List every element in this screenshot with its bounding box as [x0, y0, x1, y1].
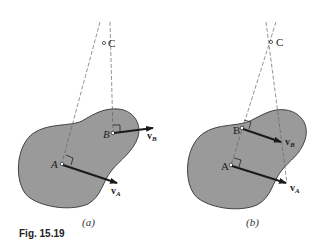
label-a: A: [221, 160, 229, 172]
rigid-body-shape: [18, 109, 139, 208]
panel-label-b: (b): [246, 216, 259, 229]
label-b: B: [233, 124, 240, 136]
label-b: B: [103, 128, 110, 140]
vector-label-vb: vB: [147, 130, 157, 143]
figure-caption: Fig. 15.19: [19, 228, 65, 239]
vector-label-va: vA: [290, 182, 300, 195]
vector-label-va: vA: [111, 185, 121, 198]
point-c: [269, 40, 272, 43]
panel-b: C B A vB vA (b): [188, 22, 307, 229]
point-c: [102, 41, 105, 44]
panel-label-a: (a): [82, 216, 95, 229]
rigid-body-shape: [188, 110, 307, 209]
label-c: C: [108, 37, 115, 49]
panel-a: C A B vA vB (a): [18, 22, 157, 229]
figure-canvas: C A B vA vB (a) C B A vB vA (b) Fig. 15.…: [0, 0, 322, 246]
label-c: C: [276, 36, 283, 48]
label-a: A: [50, 158, 58, 170]
